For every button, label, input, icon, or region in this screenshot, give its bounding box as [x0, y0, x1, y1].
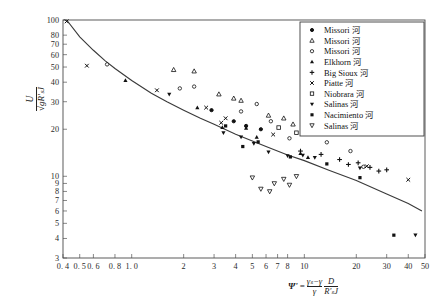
- y-tick-label: 3: [55, 254, 59, 263]
- x-tick-labels: 0. 40. 50. 60. 81. 023456781020304050: [57, 262, 429, 271]
- data-point: [319, 152, 324, 157]
- x-axis-equals: =: [300, 281, 305, 291]
- y-tick-label: 5: [55, 219, 59, 228]
- data-point: [271, 133, 275, 137]
- chart-root: 0. 40. 50. 60. 81. 023456781020304050 34…: [0, 0, 433, 307]
- y-tick-label: 7: [55, 196, 59, 205]
- data-point: [167, 93, 171, 97]
- series-8: [224, 124, 395, 236]
- y-tick-label: 80: [51, 31, 59, 40]
- data-point: [232, 96, 236, 100]
- data-point: [295, 131, 299, 135]
- x-tick-label: 0. 8: [109, 262, 121, 271]
- data-point: [349, 149, 352, 152]
- data-point: [289, 155, 292, 158]
- data-point: [123, 78, 127, 82]
- legend-label: Elkhorn 河: [324, 57, 362, 67]
- legend-label: Missori 河: [324, 46, 361, 56]
- legend-marker-0: [310, 28, 313, 31]
- legend-label: Salinas 河: [324, 121, 359, 131]
- data-point: [272, 182, 276, 186]
- data-point: [204, 106, 208, 110]
- series-6: [277, 126, 298, 135]
- legend-label: Piatte 河: [324, 78, 354, 88]
- data-point: [221, 131, 225, 135]
- data-point: [356, 160, 361, 165]
- y-tick-label: 4: [55, 234, 59, 243]
- data-point: [325, 141, 328, 144]
- y-tick-label: 50: [51, 63, 59, 72]
- data-point: [224, 116, 228, 120]
- x-axis-ticks: [63, 254, 425, 258]
- data-point: [325, 162, 328, 165]
- data-point: [192, 85, 195, 88]
- data-point: [259, 187, 263, 191]
- data-point: [358, 176, 361, 179]
- y-tick-label: 8: [55, 187, 59, 196]
- y-tick-label: 40: [51, 78, 59, 87]
- x-tick-label: 3: [212, 262, 216, 271]
- series-9: [250, 175, 299, 194]
- y-tick-label: 100: [47, 16, 59, 25]
- data-point: [337, 157, 342, 162]
- x-tick-label: 0. 4: [57, 262, 69, 271]
- data-point: [282, 177, 286, 181]
- series-4: [298, 149, 389, 174]
- data-point: [192, 69, 196, 73]
- data-point: [277, 126, 281, 130]
- x-axis-psi: Ψ': [288, 281, 298, 291]
- data-point: [241, 145, 244, 148]
- x-tick-label: 1. 0: [126, 262, 138, 271]
- data-point: [406, 178, 410, 182]
- x-tick-label: 4: [234, 262, 238, 271]
- y-axis-title: U √gR'ₛJ: [14, 88, 60, 110]
- data-point: [239, 98, 243, 102]
- x-tick-label: 5: [250, 262, 254, 271]
- y-tick-labels: 34567891020304050607080100: [47, 16, 59, 263]
- data-point: [255, 135, 259, 139]
- x-tick-label: 7: [276, 262, 280, 271]
- x-axis-frac1-den: γ: [307, 286, 322, 296]
- data-point: [288, 137, 291, 140]
- x-axis-frac2-num: D: [324, 277, 338, 286]
- x-axis-title: Ψ' = γₛ−γ γ D R'ₛJ: [288, 277, 338, 296]
- data-point: [384, 167, 389, 172]
- data-point: [252, 142, 256, 146]
- y-tick-label: 20: [51, 125, 59, 134]
- data-point: [346, 162, 351, 167]
- legend-marker-2: [310, 50, 313, 53]
- data-point: [85, 64, 89, 68]
- legend-marker-6: [310, 92, 313, 95]
- data-point: [313, 156, 317, 160]
- data-point: [210, 109, 213, 112]
- x-axis-frac1-num: γₛ−γ: [307, 277, 322, 286]
- data-point: [255, 102, 258, 105]
- y-tick-label: 70: [51, 40, 59, 49]
- x-tick-label: 30: [383, 262, 391, 271]
- legend-label: Nacimiento 河: [324, 110, 374, 120]
- legend: Missori 河Missori 河Missori 河Elkhorn 河Big …: [300, 22, 424, 136]
- x-axis-frac2-den: R'ₛJ: [324, 286, 338, 296]
- data-point: [301, 154, 305, 158]
- x-tick-label: 0. 6: [87, 262, 99, 271]
- legend-label: Big Sioux 河: [324, 68, 369, 78]
- data-point: [178, 87, 181, 90]
- data-point: [250, 176, 254, 180]
- data-point: [298, 149, 303, 154]
- data-point: [291, 122, 295, 126]
- data-point: [171, 67, 175, 71]
- y-tick-label: 60: [51, 51, 59, 60]
- x-tick-label: 0. 5: [74, 262, 86, 271]
- data-point: [306, 155, 310, 159]
- data-point: [362, 165, 365, 168]
- x-tick-label: 10: [300, 262, 308, 271]
- x-tick-label: 8: [286, 262, 290, 271]
- data-point: [217, 92, 221, 96]
- data-point: [232, 120, 235, 123]
- data-point: [257, 140, 260, 143]
- scatter-chart: 0. 40. 50. 60. 81. 023456781020304050 34…: [0, 0, 433, 307]
- y-axis-ticks: [63, 20, 67, 258]
- y-tick-label: 10: [51, 172, 59, 181]
- legend-label: Missori 河: [324, 25, 361, 35]
- data-point: [239, 110, 242, 113]
